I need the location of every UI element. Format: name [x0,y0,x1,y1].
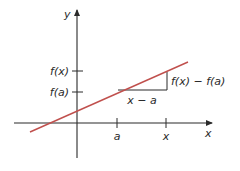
x-tick-label: x [162,130,170,143]
a-label: a [114,130,121,143]
secant-diagram: y x f(x) f(a) a x x − a f(x) − f(a) [0,0,240,171]
y-axis-label: y [63,8,71,21]
rise-label: f(x) − f(a) [171,75,225,88]
fa-label: f(a) [50,86,69,99]
fx-label: f(x) [50,65,69,78]
run-label: x − a [126,94,157,107]
x-axis-label: x [204,127,212,140]
